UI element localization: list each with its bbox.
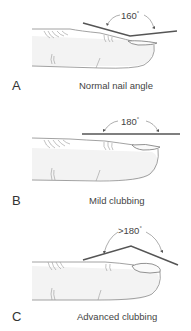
angle-arc-right — [144, 15, 154, 28]
angle-arc-left — [107, 15, 120, 25]
panel-letter: A — [12, 78, 21, 93]
nail — [132, 144, 160, 150]
nail-angle-lines — [83, 23, 177, 36]
panel-caption: Mild clubbing — [89, 195, 144, 206]
joint-wrinkles — [104, 142, 113, 150]
finger-top-outline — [32, 138, 134, 145]
angle-arc-right — [146, 232, 162, 252]
panel-caption: Normal nail angle — [79, 80, 153, 91]
angle-arc-right — [146, 121, 158, 131]
arrowhead-left-icon — [106, 23, 109, 26]
angle-arc-left — [104, 121, 118, 131]
knuckle-wrinkles — [44, 140, 70, 148]
angle-label: 180° — [121, 116, 139, 127]
angle-label: >180° — [118, 225, 142, 236]
angle-label: 160° — [121, 10, 139, 21]
panel-c-advanced-clubbing: >180° C Advanced clubbing — [0, 220, 191, 330]
finger-bottom-outline — [32, 180, 100, 181]
arrowhead-left-icon — [103, 129, 106, 132]
panel-letter: C — [12, 309, 21, 324]
panel-b-mild-clubbing: 180° B Mild clubbing — [0, 110, 191, 220]
finger-bottom-outline — [32, 66, 100, 68]
panel-letter: B — [12, 193, 21, 208]
panel-caption: Advanced clubbing — [77, 311, 157, 322]
finger-illustration-normal — [0, 0, 191, 110]
finger-top-outline — [32, 262, 134, 265]
panel-a-normal-nail-angle: 160° A Normal nail angle — [0, 0, 191, 110]
